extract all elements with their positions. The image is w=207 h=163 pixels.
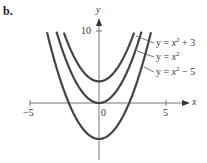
legend-x2: y = x2 bbox=[156, 50, 180, 62]
y-tick-10: 10 bbox=[81, 25, 91, 36]
legend-x2-plus-3: y = x2 + 3 bbox=[156, 36, 195, 48]
parabola-chart bbox=[0, 0, 207, 163]
x-axis-label: x bbox=[192, 96, 196, 107]
y-axis-arrow-icon bbox=[96, 18, 102, 26]
x-tick-5: 5 bbox=[163, 107, 168, 118]
x-tick-neg5: −5 bbox=[23, 107, 34, 118]
legend-x2-minus-5: y = x2 − 5 bbox=[156, 65, 195, 77]
y-axis-label: y bbox=[96, 4, 100, 15]
x-tick-0: 0 bbox=[101, 107, 106, 118]
x-axis-arrow-icon bbox=[182, 100, 190, 106]
